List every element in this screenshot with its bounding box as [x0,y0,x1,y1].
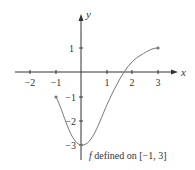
x-axis-label: x [180,66,186,78]
left-endpoint [54,95,57,98]
y-tick-label: 1 [69,43,74,54]
caption: f defined on [−1, 3] [89,150,167,161]
x-axis-arrow-icon [171,70,178,75]
y-axis-label: y [85,8,91,20]
right-endpoint [156,46,159,49]
x-tick-label: −2 [25,77,36,88]
x-tick-label: 3 [156,77,161,88]
x-tick-label: 2 [130,77,135,88]
y-tick-label: −3 [65,140,76,151]
function-graph: −2 −1 1 2 3 1 −1 −2 −3 x y f defined on … [0,0,195,170]
y-tick-label: −1 [65,92,76,103]
x-tick-label: −1 [51,77,62,88]
x-tick-label: 1 [105,77,110,88]
y-axis-arrow-icon [79,14,84,21]
